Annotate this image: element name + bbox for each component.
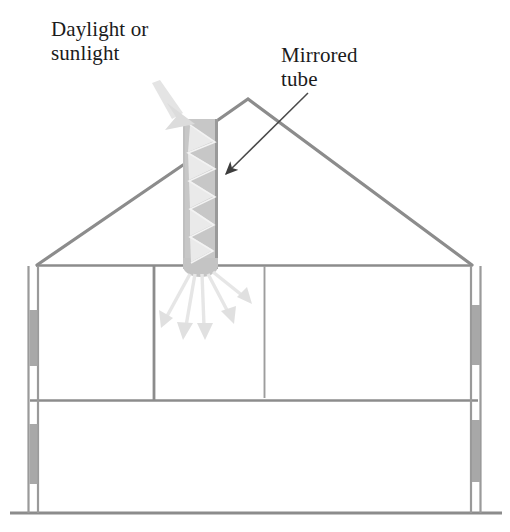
roof-left-slope xyxy=(37,165,183,265)
right-wall-window-lower xyxy=(472,420,480,482)
mirrored-tube-label: Mirrored tube xyxy=(281,44,358,91)
light-ray-3-shaft xyxy=(202,274,204,326)
diagram-canvas xyxy=(0,0,510,532)
mirrored-tube-group xyxy=(183,119,218,277)
right-exterior-wall xyxy=(471,266,481,513)
daylight-label: Daylight or sunlight xyxy=(51,18,148,65)
light-ray-5 xyxy=(213,272,252,304)
left-exterior-wall xyxy=(29,266,39,513)
light-ray-2-head xyxy=(177,322,193,340)
diffused-light-rays xyxy=(159,272,252,340)
light-ray-3 xyxy=(197,274,213,340)
light-ray-1-shaft xyxy=(166,274,190,318)
light-ray-5-head xyxy=(237,287,252,304)
light-ray-3-head xyxy=(197,323,213,340)
light-ray-4-head xyxy=(221,306,236,324)
interior-walls-group xyxy=(154,266,265,400)
light-ray-4 xyxy=(208,274,236,324)
daylight-tube-diagram: Daylight or sunlight Mirrored tube xyxy=(0,0,510,532)
roof-group xyxy=(37,99,472,265)
sunlight-arrow xyxy=(152,80,195,130)
light-ray-1-head xyxy=(159,310,173,328)
structure-lines-group xyxy=(10,266,502,514)
right-wall-window-upper xyxy=(472,305,480,365)
left-wall-window-lower xyxy=(30,424,38,484)
left-wall-window-upper xyxy=(30,310,38,366)
roof-right-slope xyxy=(218,99,472,265)
